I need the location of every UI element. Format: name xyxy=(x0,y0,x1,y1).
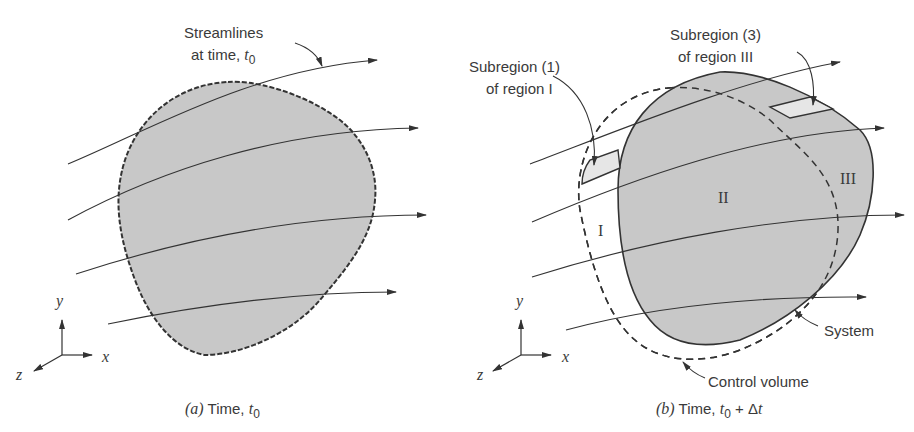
subregion-3-label-line1: Subregion (3) xyxy=(670,26,761,43)
caption-b: (b) Time, t0 + Δt xyxy=(656,400,763,421)
axis-z-b: z xyxy=(476,366,484,383)
system-pointer xyxy=(795,310,818,326)
system-boundary xyxy=(618,72,873,345)
axes-b xyxy=(493,320,551,371)
subregion-1 xyxy=(582,150,620,184)
caption-a: (a) Time, t0 xyxy=(185,400,260,421)
panel-b: Subregion (1) of region I Subregion (3) … xyxy=(469,26,904,421)
system-label: System xyxy=(824,322,874,339)
axis-z-a: z xyxy=(15,366,23,383)
region-I-label: I xyxy=(598,222,603,239)
axis-x-b: x xyxy=(561,348,569,365)
subregion-1-label-line2: of region I xyxy=(486,80,553,97)
axis-y-a: y xyxy=(54,292,64,310)
streamlines-label-line2: at time, t0 xyxy=(191,46,256,67)
control-volume-pointer xyxy=(683,362,705,378)
figure-canvas: Streamlines at time, t0 y x z (a) Time, … xyxy=(0,0,914,432)
streamlines-label-line1: Streamlines xyxy=(184,24,263,41)
region-II-label: II xyxy=(718,189,729,206)
subregion-1-pointer xyxy=(553,76,594,165)
subregion-1-label-line1: Subregion (1) xyxy=(469,58,560,75)
panel-a: Streamlines at time, t0 y x z (a) Time, … xyxy=(15,24,426,421)
streamlines-pointer-arrow xyxy=(295,43,322,66)
region-III-label: III xyxy=(840,170,856,187)
subregion-3-label-line2: of region III xyxy=(678,48,753,65)
axis-x-a: x xyxy=(101,348,109,365)
system-region-a xyxy=(118,82,375,355)
axes-a xyxy=(34,320,92,371)
axis-y-b: y xyxy=(514,292,524,310)
control-volume-label: Control volume xyxy=(708,373,809,390)
